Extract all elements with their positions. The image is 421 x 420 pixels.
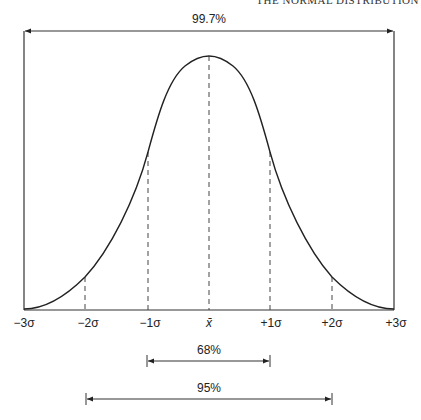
span-68-label: 68% [197, 343, 221, 357]
span-99-7-label: 99.7% [192, 12, 226, 26]
axis-label-plus-1-sigma: +1σ [260, 316, 281, 330]
axis-label-minus-1-sigma: −1σ [139, 316, 160, 330]
axis-label-plus-2-sigma: +2σ [321, 316, 342, 330]
sigma-dashed-lines [85, 56, 332, 310]
axis-label-mean: x̄ [206, 316, 212, 330]
axis-label-plus-3-sigma: +3σ [385, 316, 406, 330]
bell-curve-diagram [0, 0, 421, 420]
normal-distribution-figure: THE NORMAL DISTRIBUTION [0, 0, 421, 420]
axis-label-minus-2-sigma: −2σ [77, 316, 98, 330]
span-95-label: 95% [197, 381, 221, 395]
axis-label-minus-3-sigma: −3σ [13, 316, 34, 330]
